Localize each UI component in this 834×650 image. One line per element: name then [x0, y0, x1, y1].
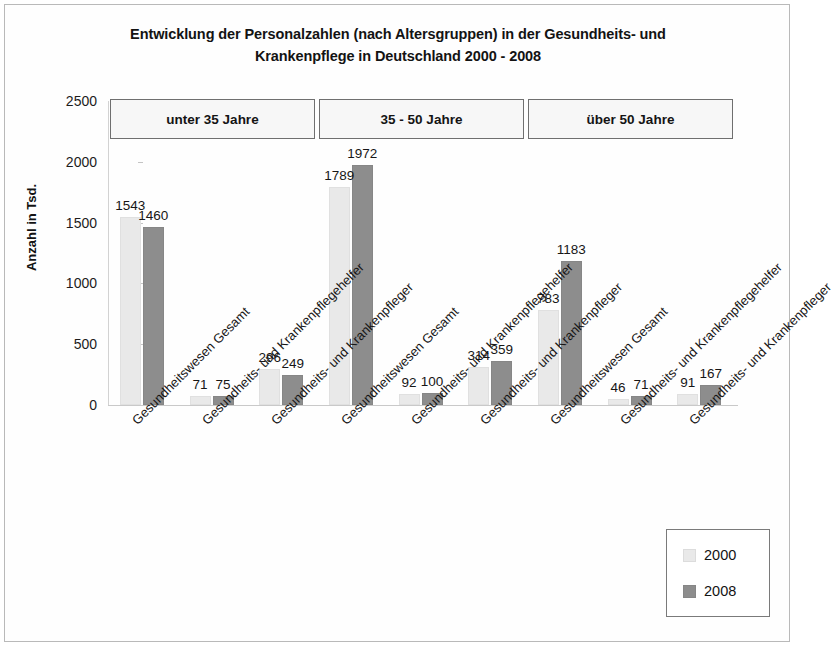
- legend-swatch-2008: [683, 585, 696, 598]
- x-category-label: Gesundheitswesen Gesamt: [129, 304, 253, 428]
- x-category-label: Gesundheits- und Krankenpfleger: [477, 280, 625, 428]
- legend-item-2000[interactable]: 2000: [683, 547, 736, 563]
- legend-label: 2008: [704, 583, 736, 599]
- x-category-label: Gesundheits- und Krankenpfleger: [268, 280, 416, 428]
- chart-legend[interactable]: 20002008: [666, 529, 770, 617]
- legend-label: 2000: [704, 547, 736, 563]
- x-category-label: Gesundheitswesen Gesamt: [547, 304, 671, 428]
- x-category-label: Gesundheits- und Krankenpfleger: [686, 280, 834, 428]
- legend-item-2008[interactable]: 2008: [683, 583, 736, 599]
- chart-frame: Entwicklung der Personalzahlen (nach Alt…: [4, 4, 790, 642]
- x-category-label: Gesundheitswesen Gesamt: [338, 304, 462, 428]
- legend-swatch-2000: [683, 549, 696, 562]
